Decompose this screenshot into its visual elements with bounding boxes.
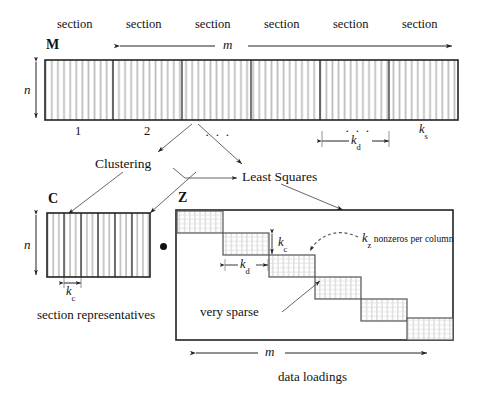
c-caption: section representatives <box>37 308 155 321</box>
z-kc-label: kc <box>278 236 287 251</box>
m-column-number-2: 2 <box>144 125 150 138</box>
z-very-sparse-label: very sparse <box>200 305 259 318</box>
m-column-number-1: 1 <box>75 125 81 138</box>
matrix-c-group <box>47 213 150 277</box>
z-block <box>269 255 315 277</box>
matrix-c-name: C <box>48 192 58 206</box>
m-kd-label: kd <box>351 134 361 149</box>
figure-vector-layer <box>0 0 481 396</box>
figure-root: section section section section section … <box>0 0 481 396</box>
matrix-z-group <box>176 210 453 340</box>
c-kc-label: kc <box>66 285 75 300</box>
m-section-label-4: section <box>264 18 299 31</box>
z-kz-callout: kz nonzeros per column <box>362 232 453 247</box>
multiply-dot-icon <box>160 243 167 250</box>
m-section-label-1: section <box>57 18 92 31</box>
m-width-label: m <box>223 38 232 51</box>
least-squares-label: Least Squares <box>242 170 317 184</box>
z-width-label: m <box>265 345 274 358</box>
z-block <box>407 318 453 340</box>
c-rows-label: n <box>24 238 31 251</box>
z-caption: data loadings <box>278 370 347 383</box>
m-section-label-6: section <box>402 18 437 31</box>
matrix-m-name: M <box>46 38 59 52</box>
m-column-ellipsis: · · · <box>205 128 231 141</box>
z-block <box>177 211 223 233</box>
z-block <box>315 277 361 299</box>
m-ks-label: ks <box>419 123 428 138</box>
clustering-label: Clustering <box>95 157 151 171</box>
matrix-z-name: Z <box>178 191 187 205</box>
m-section-label-3: section <box>195 18 230 31</box>
m-section-label-5: section <box>333 18 368 31</box>
z-block <box>223 233 269 255</box>
z-kd-label: kd <box>240 258 250 273</box>
matrix-m-group <box>45 60 458 120</box>
z-block <box>361 299 407 321</box>
m-rows-label: n <box>24 83 31 96</box>
least-squares-feeder <box>173 168 237 178</box>
m-section-label-2: section <box>126 18 161 31</box>
